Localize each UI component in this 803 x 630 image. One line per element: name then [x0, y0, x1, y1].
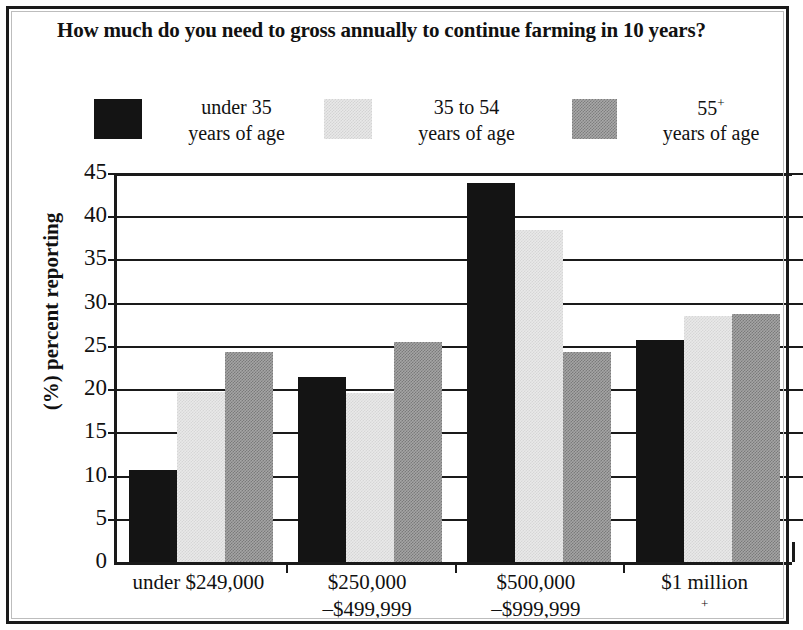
- bar-g3-s2: [515, 230, 563, 562]
- legend-label-line2: years of age: [384, 121, 549, 147]
- legend-label-line1: under 35: [154, 95, 319, 121]
- y-tick-mark-40: [108, 216, 117, 218]
- bar-group-4: [623, 173, 792, 562]
- bar-group-3: [455, 173, 624, 562]
- bar-g3-s3: [563, 352, 611, 562]
- x-axis-label-line2: –$999,999: [452, 596, 621, 623]
- right-tick-mark-10: [792, 476, 803, 478]
- y-axis-label: (%) percent reporting: [39, 162, 64, 462]
- x-axis-label-1: under $249,000: [114, 569, 283, 624]
- legend-label-under-35: under 35 years of age: [154, 95, 319, 146]
- x-axis-label-3: $500,000–$999,999: [452, 569, 621, 624]
- bar-groups: [117, 173, 792, 562]
- y-tick-mark-45: [108, 173, 117, 175]
- legend-swatch-mid-icon: [572, 99, 617, 139]
- legend-item-55-plus: 55+ years of age: [572, 97, 787, 161]
- x-axis-label-2: $250,000–$499,999: [283, 569, 452, 624]
- y-tick-label-40: 40: [84, 203, 107, 229]
- bar-g4-s1: [636, 340, 684, 562]
- bar-g2-s3: [394, 342, 442, 562]
- bar-g1-s2: [177, 392, 225, 562]
- x-axis-label-line2: –$499,999: [283, 596, 452, 623]
- y-tick-mark-10: [108, 476, 117, 478]
- legend-label-35-to-54: 35 to 54 years of age: [384, 95, 549, 146]
- bar-g2-s2: [346, 393, 394, 562]
- right-tick-mark-35: [792, 259, 803, 261]
- x-axis-label-superscript: +: [620, 596, 789, 613]
- right-tick-mark-25: [792, 346, 803, 348]
- y-tick-mark-30: [108, 303, 117, 305]
- right-tick-mark-15: [792, 432, 803, 434]
- chart-figure: How much do you need to gross annually t…: [6, 6, 789, 624]
- legend-label-line2: years of age: [154, 121, 319, 147]
- right-tick-mark-40: [792, 216, 803, 218]
- legend-label-55: 55: [697, 97, 717, 119]
- y-tick-label-15: 15: [84, 419, 107, 445]
- bar-g1-s3: [225, 352, 273, 562]
- legend-label-55-plus: 55+ years of age: [632, 95, 790, 147]
- legend-swatch-light-icon: [324, 99, 372, 139]
- y-tick-mark-15: [108, 432, 117, 434]
- right-tick-mark-20: [792, 389, 803, 391]
- legend-label-line1: 35 to 54: [384, 95, 549, 121]
- right-tick-mark-45: [792, 173, 803, 175]
- bar-g2-s1: [298, 377, 346, 562]
- bar-g4-s3: [732, 314, 780, 562]
- legend-label-line1: 55+: [632, 95, 790, 121]
- right-tick-mark-5: [792, 519, 803, 521]
- bar-group-1: [117, 173, 286, 562]
- chart-title: How much do you need to gross annually t…: [57, 17, 717, 44]
- y-tick-label-45: 45: [84, 159, 107, 185]
- y-tick-mark-5: [108, 519, 117, 521]
- x-axis-label-4: $1 million+: [620, 569, 789, 624]
- y-tick-label-20: 20: [84, 376, 107, 402]
- legend-label-55-superscript: +: [717, 95, 724, 110]
- legend-swatch-dark-icon: [94, 99, 142, 139]
- y-tick-label-25: 25: [84, 332, 107, 358]
- y-tick-label-35: 35: [84, 246, 107, 272]
- y-tick-mark-25: [108, 346, 117, 348]
- bar-group-2: [286, 173, 455, 562]
- x-axis-label-line1: $500,000: [452, 569, 621, 596]
- chart-legend: under 35 years of age 35 to 54 years of …: [94, 97, 774, 163]
- y-tick-label-5: 5: [96, 505, 108, 531]
- y-tick-mark-20: [108, 389, 117, 391]
- bar-g4-s2: [684, 316, 732, 562]
- y-tick-mark-35: [108, 259, 117, 261]
- bar-g1-s1: [129, 470, 177, 562]
- legend-label-line2: years of age: [632, 121, 790, 147]
- legend-item-35-to-54: 35 to 54 years of age: [324, 97, 554, 161]
- plot-area: 454035302520151050: [114, 173, 792, 565]
- x-axis-label-line1: $250,000: [283, 569, 452, 596]
- right-tick-mark-30: [792, 303, 803, 305]
- y-tick-label-10: 10: [84, 462, 107, 488]
- x-axis-labels: under $249,000$250,000–$499,999$500,000–…: [114, 569, 789, 624]
- legend-item-under-35: under 35 years of age: [94, 97, 324, 161]
- x-axis-label-line1: under $249,000: [114, 569, 283, 596]
- bar-g3-s1: [467, 183, 515, 562]
- right-axis-stub: [792, 542, 795, 562]
- y-tick-label-0: 0: [96, 548, 108, 574]
- x-axis-label-line1: $1 million+: [620, 569, 789, 613]
- y-tick-label-30: 30: [84, 289, 107, 315]
